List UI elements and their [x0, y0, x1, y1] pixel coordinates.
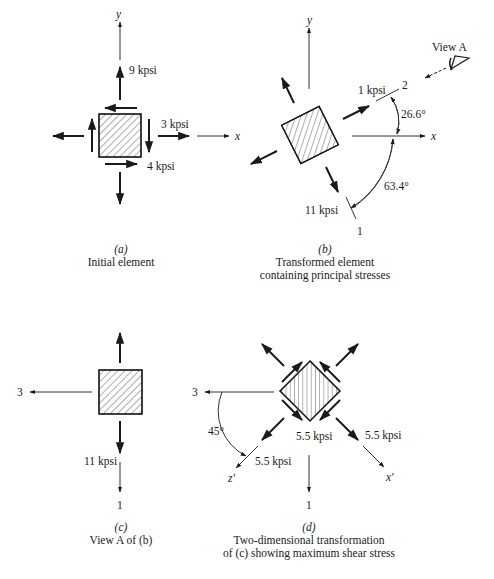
- caption-label-d: (d): [302, 521, 316, 534]
- principal-axis-2-label: 2: [402, 79, 408, 91]
- rotated-element: [282, 106, 339, 163]
- angle-arc-63: [351, 139, 393, 208]
- panel-a-initial-element: y 9 kpsi 4 kpsi 3 kpsi x (a) Initial ele…: [53, 8, 241, 268]
- caption-label-a: (a): [114, 243, 128, 256]
- sigma-1-label: 11 kpsi: [84, 455, 117, 468]
- stress-transformation-figure: y 9 kpsi 4 kpsi 3 kpsi x (a) Initial ele…: [0, 0, 494, 579]
- angle-63-label: 63.4°: [384, 180, 409, 192]
- sigma-2-left-arrow: [251, 151, 277, 164]
- principal-axis-3-label: 3: [192, 386, 198, 398]
- sigma-1-down-arrow: [326, 167, 338, 192]
- view-a-label: View A: [432, 41, 467, 53]
- shear-stress-label: 4 kpsi: [147, 160, 175, 173]
- view-a-dashed-arrow: [425, 68, 446, 78]
- shear-stress-label: 5.5 kpsi: [296, 430, 332, 443]
- sigma-y-label: 9 kpsi: [129, 64, 157, 77]
- principal-axis-1-label: 1: [117, 499, 123, 511]
- x-axis-label: x: [234, 130, 241, 142]
- caption-text-d-line1: Two-dimensional transformation: [234, 534, 385, 546]
- caption-text-b-line1: Transformed element: [276, 256, 375, 268]
- angle-26-label: 26.6°: [401, 108, 426, 120]
- panel-d-max-shear: 3 5.5 kpsi 5.5 kpsi 5.5 kpsi z′ x′ 1 45°…: [192, 344, 401, 560]
- angle-45-label: 45°: [208, 425, 225, 437]
- normal-left-label: 5.5 kpsi: [255, 455, 291, 468]
- y-axis-label: y: [306, 14, 313, 27]
- caption-text-b-line2: containing principal stresses: [260, 269, 391, 282]
- angle-arc-45: [218, 392, 246, 456]
- eye-icon: [451, 56, 469, 69]
- caption-label-b: (b): [318, 243, 332, 256]
- caption-text-d-line2: of (c) showing maximum shear stress: [223, 547, 396, 560]
- sigma-2-label: 1 kpsi: [358, 84, 386, 97]
- y-axis-label: y: [115, 8, 122, 21]
- sigma-2-right-arrow: [343, 106, 369, 119]
- normal-arrow-sw: [262, 418, 284, 440]
- principal-axis-3-label: 3: [17, 386, 23, 398]
- x-prime-axis-arrow: [363, 446, 384, 467]
- sigma-1-label: 11 kpsi: [305, 204, 338, 217]
- sigma-1-up-arrow: [282, 78, 294, 103]
- x-prime-label: x′: [385, 471, 394, 483]
- panel-b-principal-stresses: y x 2 1 kpsi 1 11 kpsi 26.6° 63.4°: [251, 14, 469, 282]
- sigma-x-label: 3 kpsi: [161, 118, 189, 131]
- caption-label-c: (c): [115, 521, 128, 534]
- panel-c-view-a: 11 kpsi 1 3 (c) View A of (b): [17, 333, 153, 547]
- normal-arrow-se: [336, 418, 358, 440]
- normal-arrow-nw: [262, 344, 284, 366]
- principal-axis-1-label: 1: [357, 225, 363, 237]
- normal-right-label: 5.5 kpsi: [365, 429, 401, 442]
- x-axis-label: x: [430, 130, 437, 142]
- caption-text-c: View A of (b): [90, 534, 153, 547]
- z-prime-label: z′: [227, 472, 235, 484]
- caption-text-a: Initial element: [88, 256, 156, 268]
- principal-axis-1-label: 1: [306, 499, 312, 511]
- normal-arrow-ne: [336, 344, 358, 366]
